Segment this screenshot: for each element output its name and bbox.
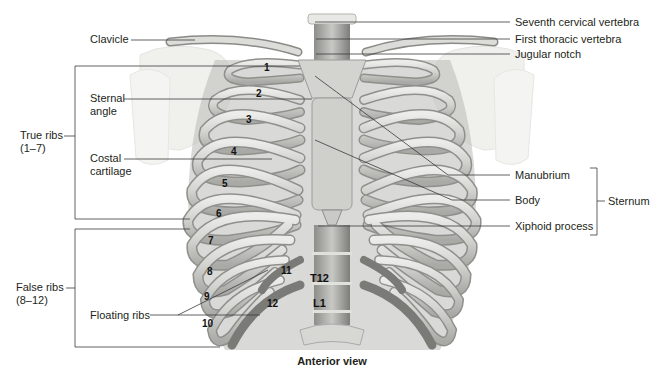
vertebra-label-t12: T12 bbox=[310, 272, 329, 284]
label-body: Body bbox=[515, 194, 540, 207]
figure-caption: Anterior view bbox=[0, 355, 664, 367]
rib-number-7: 7 bbox=[208, 235, 214, 246]
rib-number-4: 4 bbox=[231, 146, 237, 157]
label-seventh-cervical-vertebra: Seventh cervical vertebra bbox=[515, 16, 639, 29]
label-floating-ribs: Floating ribs bbox=[90, 309, 150, 322]
rib-number-11: 11 bbox=[281, 265, 292, 276]
rib-number-6: 6 bbox=[216, 208, 222, 219]
rib-number-10: 10 bbox=[202, 318, 213, 329]
label-jugular-notch: Jugular notch bbox=[515, 48, 581, 61]
rib-number-8: 8 bbox=[207, 266, 213, 277]
label-clavicle: Clavicle bbox=[90, 33, 129, 46]
label-false-ribs-line1: False ribs bbox=[16, 281, 64, 294]
rib-number-3: 3 bbox=[246, 114, 252, 125]
rib-number-1: 1 bbox=[264, 62, 270, 73]
rib-cage-diagram: Clavicle Sternal angle True ribs (1–7) C… bbox=[0, 0, 664, 377]
label-true-ribs-line2: (1–7) bbox=[20, 142, 46, 155]
label-costal-cartilage-line2: cartilage bbox=[90, 165, 132, 178]
label-sternal-angle-line1: Sternal bbox=[90, 92, 125, 105]
rib-number-9: 9 bbox=[204, 291, 210, 302]
label-sternal-angle-line2: angle bbox=[90, 105, 117, 118]
vertebra-label-l1: L1 bbox=[313, 297, 326, 309]
label-sternum: Sternum bbox=[608, 195, 650, 208]
rib-number-5: 5 bbox=[222, 178, 228, 189]
label-manubrium: Manubrium bbox=[515, 169, 570, 182]
rib-number-12: 12 bbox=[267, 298, 278, 309]
label-costal-cartilage-line1: Costal bbox=[90, 152, 121, 165]
label-xiphoid-process: Xiphoid process bbox=[515, 220, 593, 233]
rib-number-2: 2 bbox=[256, 88, 262, 99]
label-false-ribs-line2: (8–12) bbox=[16, 294, 48, 307]
label-first-thoracic-vertebra: First thoracic vertebra bbox=[515, 33, 621, 46]
label-true-ribs-line1: True ribs bbox=[20, 129, 63, 142]
